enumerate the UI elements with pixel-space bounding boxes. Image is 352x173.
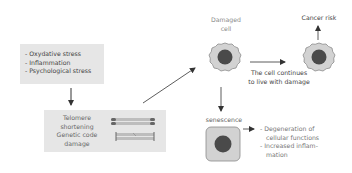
senescent-cell-icon [206,127,240,161]
damaged-cell-icon [209,43,241,71]
effect-line-1: - Degeneration of [260,125,319,134]
effect-line-3: - Increased inflam- [260,142,319,151]
damaged-cell-label-line2: cell [203,25,249,34]
chromosome-damaged-icon [116,132,154,141]
continue-label: The cell continues to live with damage [240,69,318,86]
damaged-cell-label-line1: Damaged [203,16,249,25]
cancer-cell-icon [303,43,335,71]
damaged-cell-label: Damaged cell [203,16,249,33]
arrow-diagonal-icon [143,68,195,103]
cancer-risk-label: Cancer risk [296,14,342,23]
effect-line-2: cellular functions [260,134,319,143]
chromosome-short-icon [111,118,155,125]
senescence-effects: - Degeneration of cellular functions - I… [260,125,319,159]
senescence-label: senescence [202,116,246,125]
effect-line-4: mation [260,151,319,160]
continue-label-line2: to live with damage [240,78,318,87]
continue-label-line1: The cell continues [240,69,318,78]
